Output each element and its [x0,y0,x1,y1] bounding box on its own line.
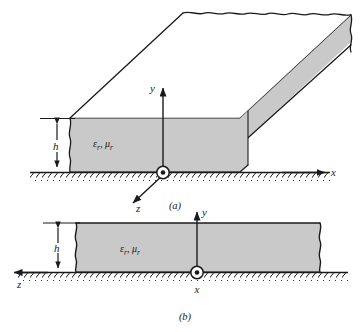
thickness-label-a: h [53,140,59,152]
axis-label-x-b: x [194,283,200,295]
caption-a: (a) [169,200,182,212]
thickness-label-b: h [54,242,60,254]
slab-b [75,223,321,272]
panel-a: h εr, μr y x z (a) [30,12,352,214]
ground-plane-a [30,173,330,182]
ground-plane-b [18,273,348,282]
origin-symbol-a [157,166,169,178]
material-separator-b: , μ [127,243,137,254]
mu-subscript-a: r [110,143,113,152]
thickness-dimension-b: h [43,223,80,268]
figure-container: h εr, μr y x z (a) [0,0,362,332]
thickness-dimension-a: h [40,119,75,168]
axis-label-z-a: z [135,202,141,214]
caption-b: (b) [179,311,192,323]
origin-symbol-b [191,266,203,278]
dielectric-slab-figure: h εr, μr y x z (a) [0,0,362,332]
panel-b: h εr, μr y z x (b) [14,206,348,323]
axis-label-y-a: y [149,82,155,94]
axis-label-x-a: x [330,166,336,178]
material-separator-a: , μ [100,138,110,149]
mu-subscript-b: r [137,248,140,257]
axis-label-z-b: z [16,278,22,290]
axis-label-y-b: y [201,206,207,218]
